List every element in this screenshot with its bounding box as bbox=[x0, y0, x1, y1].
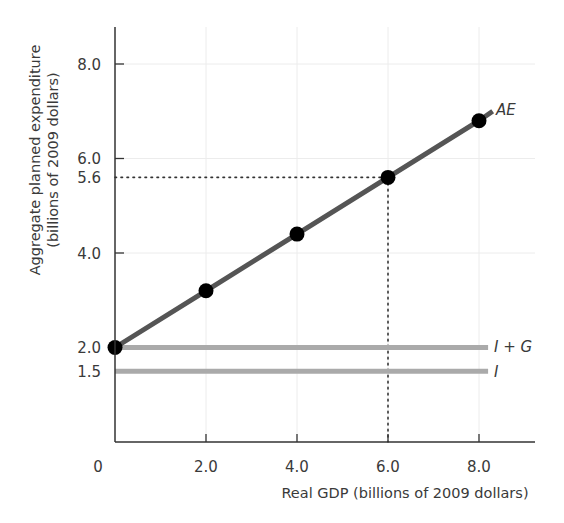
y-axis-title-line2: (billions of 2009 dollars) bbox=[45, 72, 61, 248]
data-point-marker bbox=[472, 113, 487, 128]
tick-labels: 2.04.06.08.001.52.04.05.66.08.0 bbox=[77, 56, 491, 477]
aggregate-expenditure-chart: 2.04.06.08.001.52.04.05.66.08.0 Real GDP… bbox=[0, 0, 564, 523]
x-tick-label: 6.0 bbox=[376, 458, 400, 476]
equilibrium-guides bbox=[115, 177, 388, 442]
y-tick-label: 8.0 bbox=[77, 56, 101, 74]
y-tick-label: 1.5 bbox=[77, 363, 101, 381]
grid-lines bbox=[115, 27, 535, 442]
series-line-ae bbox=[115, 111, 493, 347]
series-layer bbox=[108, 111, 493, 371]
y-axis-title-line1: Aggregate planned expenditure bbox=[27, 45, 43, 276]
y-tick-label: 2.0 bbox=[77, 339, 101, 357]
x-tick-label: 2.0 bbox=[194, 458, 218, 476]
axes bbox=[115, 27, 535, 442]
series-label-i-plus-g: I + G bbox=[494, 338, 532, 356]
series-label-i: I bbox=[494, 363, 499, 381]
x-tick-label: 4.0 bbox=[285, 458, 309, 476]
x-tick-label: 8.0 bbox=[467, 458, 491, 476]
y-tick-label: 4.0 bbox=[77, 245, 101, 263]
x-origin-label: 0 bbox=[93, 458, 103, 476]
data-point-marker bbox=[381, 170, 396, 185]
x-axis-title: Real GDP (billions of 2009 dollars) bbox=[281, 485, 528, 501]
data-point-marker bbox=[290, 227, 305, 242]
y-tick-label: 6.0 bbox=[77, 150, 101, 168]
series-label-ae: AE bbox=[495, 101, 516, 119]
y-tick-label: 5.6 bbox=[77, 169, 101, 187]
data-point-marker bbox=[199, 283, 214, 298]
